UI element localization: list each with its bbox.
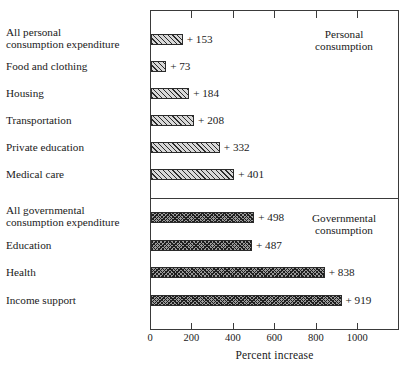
bar-value-label: + 838 xyxy=(329,266,355,278)
bar xyxy=(151,34,183,45)
x-tick-label-0: 0 xyxy=(130,332,170,343)
bar xyxy=(151,267,325,278)
x-tick-label-600: 600 xyxy=(254,332,294,343)
x-tick-bottom-800 xyxy=(316,323,317,330)
category-label: Medical care xyxy=(6,168,148,180)
bar xyxy=(151,142,220,153)
panel-caption-governmental-line2: consumption xyxy=(289,224,399,236)
bar xyxy=(151,88,189,99)
panel-caption-personal: Personal consumption xyxy=(289,28,399,53)
bar-value-label: + 153 xyxy=(187,33,213,45)
category-label-line1: Food and clothing xyxy=(6,60,87,72)
category-label-line1: Housing xyxy=(6,87,44,99)
x-tick-bottom-200 xyxy=(191,323,192,330)
bar-value-label: + 184 xyxy=(193,87,219,99)
category-label-line1: Income support xyxy=(6,294,76,306)
category-label-line1: Transportation xyxy=(6,114,71,126)
bar xyxy=(151,169,234,180)
bar xyxy=(151,240,252,251)
x-axis-title: Percent increase xyxy=(150,349,399,361)
x-tick-bottom-400 xyxy=(233,323,234,330)
category-label: Education xyxy=(6,239,148,251)
bar-value-label: + 208 xyxy=(198,114,224,126)
category-label-line2: consumption expenditure xyxy=(6,38,148,50)
panel-caption-personal-line1: Personal xyxy=(325,28,364,40)
x-tick-top-800 xyxy=(316,11,317,18)
x-tick-top-200 xyxy=(191,11,192,18)
x-tick-label-800: 800 xyxy=(296,332,336,343)
x-tick-label-200: 200 xyxy=(171,332,211,343)
category-label: All governmentalconsumption expenditure xyxy=(6,204,148,228)
bar xyxy=(151,61,166,72)
x-tick-bottom-600 xyxy=(274,323,275,330)
category-label: Food and clothing xyxy=(6,60,148,72)
category-label: Housing xyxy=(6,87,148,99)
bar-value-label: + 919 xyxy=(346,294,372,306)
panel-caption-governmental-line1: Governmental xyxy=(312,212,376,224)
category-label-line1: Health xyxy=(6,266,36,278)
x-tick-bottom-1000 xyxy=(357,323,358,330)
category-label: Health xyxy=(6,266,148,278)
x-tick-top-400 xyxy=(233,11,234,18)
category-label-line1: All personal xyxy=(6,26,61,38)
bar-value-label: + 73 xyxy=(170,60,190,72)
category-label: Private education xyxy=(6,141,148,153)
panel-caption-governmental: Governmental consumption xyxy=(289,212,399,237)
x-tick-top-1000 xyxy=(357,11,358,18)
bar-value-label: + 401 xyxy=(238,168,264,180)
x-tick-top-600 xyxy=(274,11,275,18)
category-label: All personalconsumption expenditure xyxy=(6,26,148,50)
bar xyxy=(151,295,342,306)
panel-divider xyxy=(150,198,399,199)
category-label: Transportation xyxy=(6,114,148,126)
bar xyxy=(151,212,254,223)
category-label-line1: All governmental xyxy=(6,204,85,216)
category-label-line1: Education xyxy=(6,239,51,251)
x-tick-label-1000: 1000 xyxy=(337,332,377,343)
bar-value-label: + 332 xyxy=(224,141,250,153)
panel-caption-personal-line2: consumption xyxy=(289,40,399,52)
bar-chart: 02004006008001000 Percent increase + 153… xyxy=(0,0,414,378)
category-label-line1: Medical care xyxy=(6,168,64,180)
category-label-line2: consumption expenditure xyxy=(6,216,148,228)
bar-value-label: + 498 xyxy=(258,211,284,223)
category-label-line1: Private education xyxy=(6,141,84,153)
bar xyxy=(151,115,194,126)
x-tick-label-400: 400 xyxy=(213,332,253,343)
category-label: Income support xyxy=(6,294,148,306)
bar-value-label: + 487 xyxy=(256,239,282,251)
